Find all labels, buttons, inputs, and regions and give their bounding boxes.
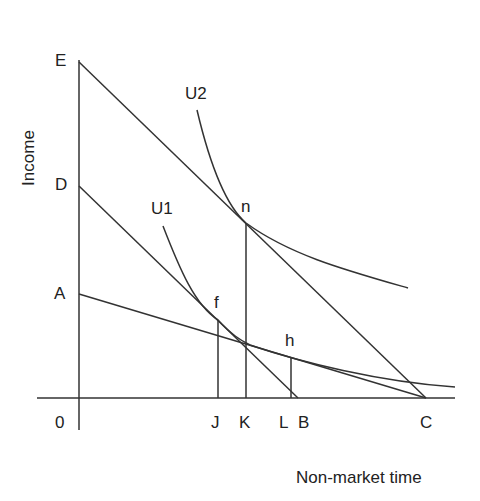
label-U2: U2 bbox=[185, 85, 207, 102]
indifference-curve-U2 bbox=[197, 110, 408, 288]
label-n: n bbox=[241, 198, 250, 215]
label-B: B bbox=[298, 414, 309, 431]
label-A: A bbox=[54, 285, 65, 302]
label-E: E bbox=[55, 52, 66, 69]
x-axis-label: Non-market time bbox=[296, 468, 422, 488]
label-h: h bbox=[285, 332, 294, 349]
budget-line-EC bbox=[79, 62, 426, 398]
label-K: K bbox=[239, 414, 250, 431]
label-f: f bbox=[214, 294, 219, 311]
label-J: J bbox=[211, 414, 220, 431]
label-origin: 0 bbox=[55, 414, 64, 431]
label-C: C bbox=[420, 414, 432, 431]
label-D: D bbox=[55, 176, 67, 193]
indifference-curve-U1 bbox=[163, 226, 455, 387]
y-axis-label: Income bbox=[19, 123, 39, 193]
budget-line-DB bbox=[79, 186, 298, 398]
label-L: L bbox=[279, 414, 288, 431]
label-U1: U1 bbox=[151, 200, 173, 217]
